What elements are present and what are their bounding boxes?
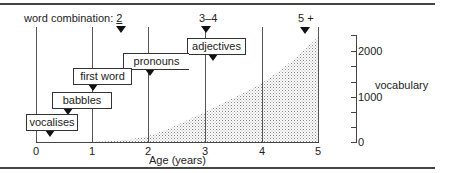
- milestone-vocalises: vocalises: [26, 114, 78, 131]
- x-tick-4: 4: [259, 145, 265, 157]
- y-tick-2000: 2000: [358, 45, 382, 57]
- marker-triangle-pronouns: [145, 69, 155, 76]
- milestone-adjectives: adjectives: [187, 38, 246, 55]
- marker-triangle-5-plus: [300, 27, 310, 34]
- y-tick-1000: 1000: [358, 91, 382, 103]
- milestone-babbles: babbles: [52, 92, 112, 109]
- marker-triangle-3-4: [201, 26, 211, 33]
- marker-5-plus-label: 5 +: [298, 12, 314, 24]
- marker-3-4-label: 3–4: [199, 12, 217, 24]
- milestone-pronouns: pronouns: [123, 53, 189, 70]
- x-tick-5: 5: [315, 145, 321, 157]
- marker-triangle-word-combination-2: [116, 26, 126, 33]
- word-combination-text: word combination:: [24, 12, 116, 24]
- milestone-first-word: first word: [73, 68, 132, 85]
- x-axis-title: Age (years): [149, 154, 206, 166]
- y-axis-title: vocabulary: [375, 79, 428, 91]
- marker-triangle-vocalises: [45, 130, 55, 137]
- word-combination-label: word combination: 2: [24, 12, 122, 24]
- marker-triangle-adjectives: [208, 54, 218, 61]
- word-combination-value: 2: [116, 12, 122, 24]
- marker-triangle-first-word: [88, 84, 98, 91]
- x-tick-0: 0: [33, 145, 39, 157]
- y-tick-0: 0: [358, 136, 364, 148]
- x-tick-1: 1: [89, 145, 95, 157]
